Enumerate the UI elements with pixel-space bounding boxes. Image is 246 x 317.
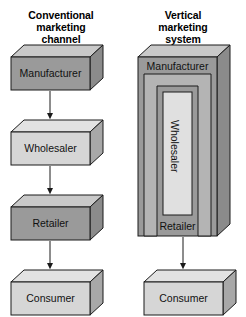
node-label-manufacturer-left: Manufacturer	[11, 67, 90, 79]
node-label-wholesaler-left: Wholesaler	[11, 142, 90, 154]
node-label-consumer-right: Consumer	[144, 292, 223, 304]
node-label-retailer-right: Retailer	[138, 220, 217, 232]
node-label-wholesaler-right: Wholesaler	[169, 120, 181, 173]
vertical-marketing-diagram: Conventional marketing channel Vertical …	[0, 0, 246, 317]
node-label-manufacturer-right: Manufacturer	[138, 60, 217, 72]
diagram-canvas	[0, 0, 246, 317]
node-label-retailer-left: Retailer	[11, 217, 90, 229]
node-label-consumer-left: Consumer	[11, 292, 90, 304]
